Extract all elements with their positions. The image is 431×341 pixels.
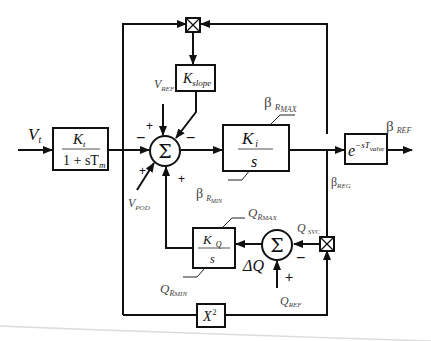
- q-max-limit-line: [222, 218, 245, 228]
- integrator-denominator: s: [251, 153, 257, 170]
- q-min-limit-line: [183, 268, 205, 277]
- vt-label: Vt: [28, 125, 41, 145]
- block-diagram: Vt Kt 1 + sTm Kslope VREF Σ − + − + + VP…: [0, 0, 431, 341]
- q-max-label: QRMAX: [248, 205, 277, 222]
- page-edge-shadow: [0, 326, 431, 341]
- kq-denominator: s: [210, 252, 215, 266]
- q-ref-label: QREF: [280, 294, 302, 309]
- q-sign-bottom: +: [285, 269, 293, 285]
- vref-label: VREF: [154, 77, 175, 93]
- sign-bottom-right: +: [178, 172, 185, 186]
- vpod-label: VPOD: [128, 196, 150, 212]
- beta-ref-label: βREF: [386, 118, 411, 135]
- main-sum-symbol: Σ: [158, 140, 171, 162]
- sign-bottom-left: +: [139, 164, 146, 178]
- sign-left: −: [136, 129, 145, 146]
- q-svc-label: QSVC: [297, 221, 320, 236]
- top-right-line: [201, 24, 327, 134]
- q-min-label: QRMIN: [160, 281, 187, 298]
- sign-top-left: +: [146, 119, 153, 133]
- q-sum-symbol: Σ: [270, 234, 283, 256]
- beta-min-label: βRMIN: [196, 186, 223, 204]
- beta-max-limit-line: [270, 115, 295, 125]
- q-sign-right: −: [296, 249, 305, 266]
- beta-reg-label: βREG: [331, 175, 351, 190]
- sign-top-right: −: [186, 129, 195, 146]
- delta-q-label: ΔQ: [242, 257, 264, 274]
- beta-max-label: βRMAX: [264, 94, 298, 114]
